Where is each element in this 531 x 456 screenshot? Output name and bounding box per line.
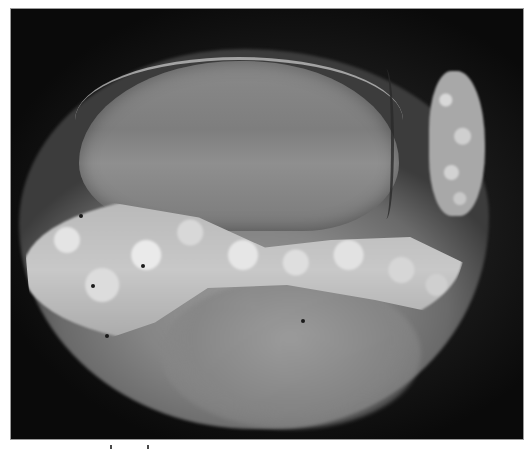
dark-speck <box>301 319 305 323</box>
caption-marks <box>0 441 531 456</box>
clinical-photo <box>10 8 524 440</box>
dark-speck <box>105 334 109 338</box>
lower-smooth-area <box>161 279 421 429</box>
dark-speck <box>79 214 83 218</box>
right-scaly-patch <box>429 71 485 216</box>
caption-mark <box>147 445 149 449</box>
dark-speck <box>141 264 145 268</box>
dark-speck <box>91 284 95 288</box>
figure <box>0 0 531 456</box>
caption-mark <box>110 445 112 449</box>
